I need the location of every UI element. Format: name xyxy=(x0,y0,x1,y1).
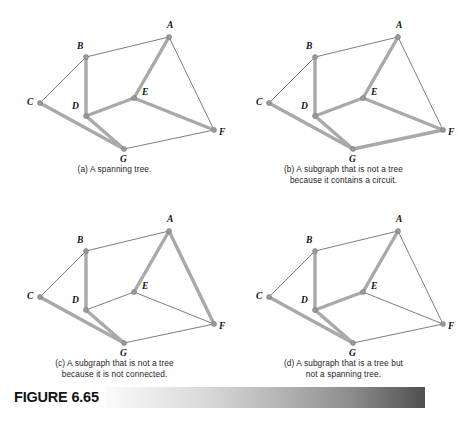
graph-diagram-d: ABCDEFG xyxy=(229,198,458,358)
edge-EF xyxy=(363,292,443,324)
graph-svg-c: ABCDEFG xyxy=(0,198,229,358)
panel-a-caption: (a) A spanning tree. xyxy=(0,164,229,175)
node-label-E: E xyxy=(141,281,148,291)
panel-a: ABCDEFG (a) A spanning tree. xyxy=(0,4,229,175)
node-label-F: F xyxy=(218,321,226,331)
node-label-D: D xyxy=(300,101,308,111)
node-label-A: A xyxy=(166,20,173,30)
node-B xyxy=(84,249,89,254)
edge-CG-highlighted xyxy=(40,103,124,149)
graph-svg-d: ABCDEFG xyxy=(229,198,458,358)
node-label-B: B xyxy=(76,41,83,51)
node-C xyxy=(267,101,272,106)
node-A xyxy=(167,35,172,40)
node-label-G: G xyxy=(120,348,127,358)
figure-label: FIGURE 6.65 xyxy=(14,389,99,405)
caption-line: (a) A spanning tree. xyxy=(18,164,211,175)
node-G xyxy=(351,147,356,152)
node-F xyxy=(212,322,217,327)
node-label-B: B xyxy=(305,235,312,245)
edge-CG-highlighted xyxy=(269,297,353,343)
node-label-E: E xyxy=(370,281,377,291)
edge-DE-highlighted xyxy=(86,98,134,116)
node-D xyxy=(313,308,318,313)
node-label-D: D xyxy=(71,101,79,111)
edge-DE-highlighted xyxy=(315,292,363,310)
graph-svg-b: ABCDEFG xyxy=(229,4,458,164)
caption-line: (c) A subgraph that is not a tree xyxy=(18,358,211,369)
edge-BC xyxy=(269,57,315,103)
node-label-A: A xyxy=(395,20,402,30)
node-label-F: F xyxy=(218,127,226,137)
graph-diagram-b: ABCDEFG xyxy=(229,4,458,164)
node-C xyxy=(38,295,43,300)
panel-d: ABCDEFG (d) A subgraph that is a tree bu… xyxy=(229,198,458,379)
panel-c-caption: (c) A subgraph that is not a treebecause… xyxy=(0,358,229,379)
node-F xyxy=(441,128,446,133)
node-C xyxy=(267,295,272,300)
node-F xyxy=(212,128,217,133)
edge-AF xyxy=(398,231,443,324)
edge-DE xyxy=(86,292,134,310)
node-G xyxy=(351,341,356,346)
node-B xyxy=(313,55,318,60)
panel-b: ABCDEFG (b) A subgraph that is not a tre… xyxy=(229,4,458,185)
node-label-E: E xyxy=(370,87,377,97)
node-label-D: D xyxy=(300,295,308,305)
node-E xyxy=(361,96,366,101)
figure-bar: FIGURE 6.65 xyxy=(0,384,458,412)
node-E xyxy=(361,290,366,295)
caption-line: (b) A subgraph that is not a tree xyxy=(247,164,440,175)
caption-line: (d) A subgraph that is a tree but xyxy=(247,358,440,369)
node-label-E: E xyxy=(141,87,148,97)
node-D xyxy=(84,114,89,119)
node-label-A: A xyxy=(395,214,402,224)
node-B xyxy=(84,55,89,60)
panel-c: ABCDEFG (c) A subgraph that is not a tre… xyxy=(0,198,229,379)
edge-BC xyxy=(40,57,86,103)
node-label-C: C xyxy=(27,97,34,107)
node-C xyxy=(38,101,43,106)
node-G xyxy=(122,147,127,152)
node-label-G: G xyxy=(349,348,356,358)
edge-EF-highlighted xyxy=(363,98,443,130)
node-label-C: C xyxy=(27,291,34,301)
node-label-G: G xyxy=(349,154,356,164)
graph-diagram-c: ABCDEFG xyxy=(0,198,229,358)
node-B xyxy=(313,249,318,254)
caption-line: because it is not connected. xyxy=(18,369,211,380)
graph-diagram-a: ABCDEFG xyxy=(0,4,229,164)
node-G xyxy=(122,341,127,346)
edge-AB xyxy=(315,231,398,251)
node-label-C: C xyxy=(256,291,263,301)
node-label-G: G xyxy=(120,154,127,164)
graph-svg-a: ABCDEFG xyxy=(0,4,229,164)
node-label-B: B xyxy=(76,235,83,245)
figure-container: ABCDEFG (a) A spanning tree. ABCDEFG (b)… xyxy=(0,0,458,423)
node-A xyxy=(167,229,172,234)
edge-GF xyxy=(124,130,214,149)
node-D xyxy=(313,114,318,119)
caption-line: because it contains a circuit. xyxy=(247,175,440,186)
node-label-C: C xyxy=(256,97,263,107)
node-A xyxy=(396,229,401,234)
edge-AE-highlighted xyxy=(363,37,398,98)
node-label-F: F xyxy=(447,321,455,331)
edge-BC xyxy=(269,251,315,297)
edge-AB xyxy=(86,37,169,57)
node-label-B: B xyxy=(305,41,312,51)
node-F xyxy=(441,322,446,327)
edge-AB xyxy=(86,231,169,251)
panel-d-caption: (d) A subgraph that is a tree butnot a s… xyxy=(229,358,458,379)
edge-AB xyxy=(315,37,398,57)
node-E xyxy=(132,96,137,101)
caption-line: not a spanning tree. xyxy=(247,369,440,380)
edge-CG-highlighted xyxy=(269,103,353,149)
edge-AF-highlighted xyxy=(169,231,214,324)
node-label-A: A xyxy=(166,214,173,224)
edge-AE-highlighted xyxy=(363,231,398,292)
node-label-D: D xyxy=(71,295,79,305)
edge-GF xyxy=(124,324,214,343)
edge-BC xyxy=(40,251,86,297)
edge-CG-highlighted xyxy=(40,297,124,343)
